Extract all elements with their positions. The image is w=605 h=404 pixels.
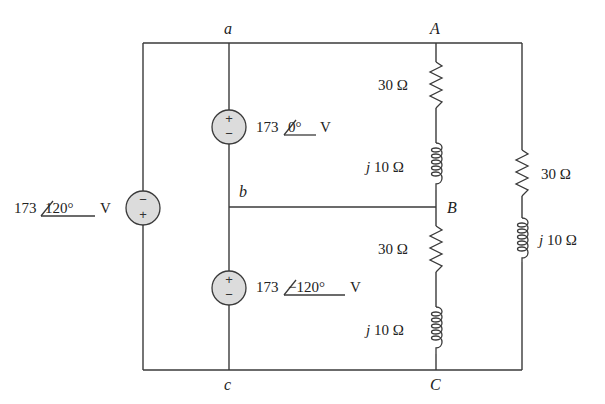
minus-sign: − bbox=[225, 126, 233, 141]
plus-sign: + bbox=[225, 272, 233, 287]
resistor-BC bbox=[430, 226, 442, 272]
node-b-label: b bbox=[239, 183, 247, 200]
node-C-label: C bbox=[430, 376, 441, 393]
node-B-label: B bbox=[447, 199, 457, 216]
source-label-ab: 173 0° V bbox=[256, 119, 331, 135]
resistor-CA bbox=[516, 150, 528, 196]
voltage-source-bc: + − bbox=[212, 271, 246, 305]
svg-text:173: 173 bbox=[256, 279, 279, 295]
svg-text:173: 173 bbox=[14, 200, 37, 216]
voltage-source-ab: + − bbox=[212, 110, 246, 144]
l-AB-label: j 10 Ω bbox=[364, 159, 404, 175]
svg-text:V: V bbox=[100, 200, 111, 216]
minus-sign: − bbox=[225, 287, 233, 302]
inductor-CA bbox=[518, 218, 529, 262]
svg-text:10 Ω: 10 Ω bbox=[374, 159, 404, 175]
plus-sign: + bbox=[225, 111, 233, 126]
r-BC-label: 30 Ω bbox=[378, 241, 408, 257]
source-label-bc: 173 −120° V bbox=[256, 279, 361, 295]
inductor-BC bbox=[432, 307, 443, 354]
svg-text:−120°: −120° bbox=[288, 279, 325, 295]
r-AB-label: 30 Ω bbox=[378, 77, 408, 93]
node-c-label: c bbox=[224, 376, 231, 393]
l-BC-label: j 10 Ω bbox=[364, 322, 404, 338]
node-a-label: a bbox=[224, 20, 232, 37]
circuit-diagram: + − + − − + 173 0° V 173 −120° V 173 120… bbox=[0, 0, 605, 404]
source-label-ca: 173 120° V bbox=[14, 200, 111, 216]
svg-text:V: V bbox=[350, 279, 361, 295]
l-CA-label: j 10 Ω bbox=[537, 232, 577, 248]
svg-text:10 Ω: 10 Ω bbox=[547, 232, 577, 248]
inductor-AB bbox=[432, 143, 443, 190]
r-CA-label: 30 Ω bbox=[541, 166, 571, 182]
resistor-AB bbox=[430, 62, 442, 108]
voltage-source-ca: − + bbox=[126, 191, 160, 225]
svg-text:j: j bbox=[537, 232, 543, 248]
plus-sign: + bbox=[139, 207, 147, 222]
svg-text:0°: 0° bbox=[288, 119, 302, 135]
svg-text:j: j bbox=[364, 322, 370, 338]
wires bbox=[143, 43, 522, 370]
minus-sign: − bbox=[139, 192, 147, 207]
svg-text:173: 173 bbox=[256, 119, 279, 135]
svg-text:120°: 120° bbox=[45, 200, 74, 216]
node-A-label: A bbox=[429, 20, 440, 37]
svg-text:10 Ω: 10 Ω bbox=[374, 322, 404, 338]
svg-text:j: j bbox=[364, 159, 370, 175]
svg-text:V: V bbox=[320, 119, 331, 135]
